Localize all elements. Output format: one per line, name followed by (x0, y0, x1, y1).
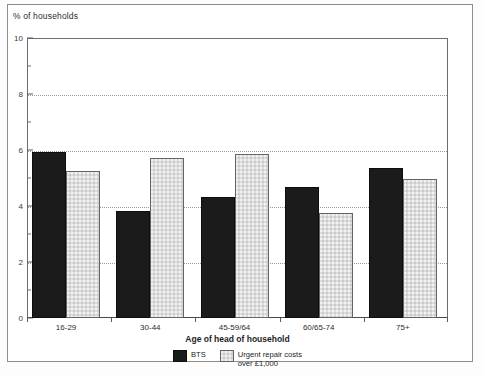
y-tick-label: 0 (19, 314, 23, 323)
x-tick-label: 16-29 (56, 323, 76, 332)
x-tick (364, 318, 365, 322)
y-tick-label: 8 (19, 90, 23, 99)
chart-figure: % of households 0246810 16-2930-4445-59/… (0, 0, 485, 376)
x-tick (111, 318, 112, 322)
x-tick-label: 30-44 (140, 323, 160, 332)
y-tick-label: 4 (19, 202, 23, 211)
y-axis-tick-labels: 0246810 (6, 38, 23, 318)
legend-entry: Urgent repair costs over £1,000 (220, 350, 302, 368)
x-tick (27, 318, 28, 322)
bar-bts (201, 197, 235, 318)
bar-bts (285, 187, 319, 318)
bar-urgent-repair (235, 154, 269, 318)
chart-legend: BTSUrgent repair costs over £1,000 (27, 350, 448, 368)
legend-swatch-bts (173, 350, 187, 362)
x-tick-label: 75+ (396, 323, 410, 332)
x-tick-label: 60/65-74 (303, 323, 335, 332)
y-tick-label: 6 (19, 146, 23, 155)
bar-bts (369, 168, 403, 318)
x-tick (195, 318, 196, 322)
x-tick-label: 45-59/64 (219, 323, 251, 332)
x-tick (280, 318, 281, 322)
bar-urgent-repair (66, 171, 100, 318)
legend-label: BTS (191, 350, 206, 360)
bar-urgent-repair (319, 213, 353, 318)
legend-label: Urgent repair costs over £1,000 (238, 350, 302, 368)
x-axis-title: Age of head of household (27, 334, 448, 344)
bar-urgent-repair (403, 179, 437, 318)
legend-entry: BTS (173, 350, 206, 362)
bars-group (28, 39, 447, 318)
y-axis-title: % of households (13, 11, 78, 21)
x-tick (447, 318, 448, 322)
legend-swatch-urgent-repair (220, 350, 234, 362)
y-tick-label: 2 (19, 258, 23, 267)
bar-bts (116, 211, 150, 318)
y-tick-label: 10 (14, 34, 23, 43)
bar-bts (32, 152, 66, 318)
bar-urgent-repair (150, 158, 184, 318)
